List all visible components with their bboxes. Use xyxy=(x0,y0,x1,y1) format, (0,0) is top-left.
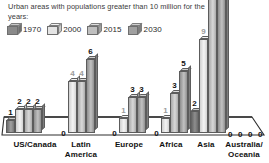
bar-2000: 1 xyxy=(119,118,128,133)
bar-value-label: 2 xyxy=(15,97,24,106)
bar-value-label: 0 xyxy=(238,130,242,139)
bar-value-label: 9 xyxy=(199,27,208,36)
category-label-line1: Australia/ xyxy=(225,140,262,149)
category-label-line1: Latin xyxy=(71,140,91,149)
bar-value-label: 0 xyxy=(152,129,161,138)
category-label-line2: America xyxy=(65,150,97,159)
bar-value-label: 2 xyxy=(24,97,33,106)
bar-value-label: 3 xyxy=(128,85,137,94)
category-label-australia-oceania: Australia/ Oceania xyxy=(218,140,269,160)
bar-value-label: 1 xyxy=(119,106,128,115)
bar-value-label: 6 xyxy=(86,47,95,56)
bar-2030: 2 xyxy=(33,109,42,133)
bar-chart: Urban areas with populations greater tha… xyxy=(0,0,269,163)
bar-2000: 4 xyxy=(68,81,77,133)
legend-label-2030: 2030 xyxy=(144,25,162,34)
bar-2030: 5 xyxy=(179,71,188,133)
cube-icon xyxy=(87,23,101,35)
bar-2015: 2 xyxy=(24,109,33,133)
bar-value-label: 0 xyxy=(248,130,252,139)
plot-area: 1 2 2 2 xyxy=(0,40,269,163)
bar-value-label: 4 xyxy=(68,69,77,78)
bar-value-label: 1 xyxy=(161,106,170,115)
category-label-line1: US/Canada xyxy=(13,140,56,149)
bar-2015: 3 xyxy=(128,97,137,133)
bar-value-label: 3 xyxy=(170,81,179,90)
bar-value-label: 4 xyxy=(77,69,86,78)
legend-item-2015: 2015 xyxy=(87,23,121,35)
bar-value-label: 3 xyxy=(137,85,146,94)
legend-label-2000: 2000 xyxy=(63,25,81,34)
bar-2000: 2 xyxy=(15,109,24,133)
bar-2000: 9 xyxy=(199,39,208,133)
bar-value-label: 0 xyxy=(258,130,262,139)
category-label-line1: Africa xyxy=(159,140,182,149)
legend-label-1970: 1970 xyxy=(23,25,41,34)
bar-1970: 1 xyxy=(6,120,15,133)
bar-2000: 1 xyxy=(161,118,170,133)
chart-legend: 1970 2000 2015 2030 xyxy=(7,23,168,35)
legend-item-2030: 2030 xyxy=(128,23,162,35)
cube-icon xyxy=(47,23,61,35)
bar-value-label: 0 xyxy=(59,129,68,138)
bar-2030: 3 xyxy=(137,97,146,133)
bar-value-label: 5 xyxy=(179,59,188,68)
bar-2030 xyxy=(217,0,226,133)
legend-item-1970: 1970 xyxy=(7,23,41,35)
category-label-latin-america: Latin America xyxy=(52,140,110,160)
category-label-line1: Asia xyxy=(197,140,214,149)
bar-2015 xyxy=(208,0,217,133)
bar-2015: 3 xyxy=(170,93,179,133)
bar-value-label: 2 xyxy=(190,99,199,108)
bar-value-label: 2 xyxy=(33,97,42,106)
category-label-line2: Oceania xyxy=(228,150,260,159)
bar-value-label: 0 xyxy=(228,130,232,139)
legend-item-2000: 2000 xyxy=(47,23,81,35)
bar-2015: 4 xyxy=(77,81,86,133)
cube-icon xyxy=(128,23,142,35)
cube-icon xyxy=(7,23,21,35)
bar-1970: 2 xyxy=(190,111,199,133)
bar-2030: 6 xyxy=(86,59,95,133)
bar-value-label: 0 xyxy=(110,129,119,138)
legend-label-2015: 2015 xyxy=(103,25,121,34)
category-label-line1: Europe xyxy=(115,140,143,149)
